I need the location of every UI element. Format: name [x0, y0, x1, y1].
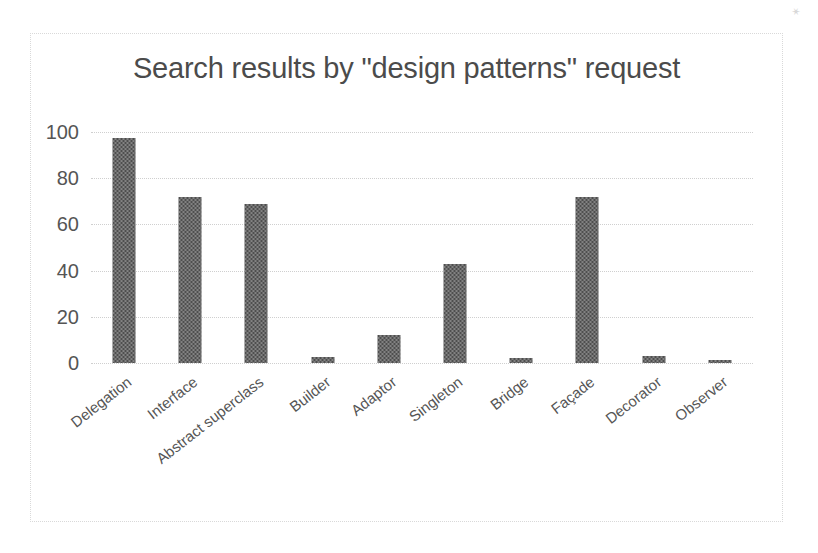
bar-series-group: DelegationInterfaceAbstract superclassBu… — [91, 132, 753, 363]
x-tick-label-text: Decorator — [602, 373, 664, 427]
x-tick-label-text: Interface — [144, 373, 200, 422]
bar[interactable] — [444, 264, 467, 363]
gridline — [91, 363, 753, 364]
scan-speckle-top-right: ✶ — [788, 5, 802, 21]
x-tick-label: Façade — [548, 373, 598, 417]
y-tick-label: 60 — [57, 213, 79, 236]
bar-slot: Interface — [157, 132, 223, 363]
bar-slot: Decorator — [621, 132, 687, 363]
x-tick-label: Decorator — [602, 373, 664, 427]
bar[interactable] — [576, 197, 599, 363]
bar[interactable] — [642, 356, 665, 363]
x-tick-label-text: Builder — [286, 373, 333, 415]
bar-slot: Singleton — [422, 132, 488, 363]
bar[interactable] — [510, 358, 533, 363]
x-tick-label: Adaptor — [347, 373, 399, 419]
plot-area: 020406080100 DelegationInterfaceAbstract… — [91, 132, 753, 363]
y-tick-label: 40 — [57, 259, 79, 282]
x-tick-label-text: Delegation — [68, 373, 135, 431]
chart-frame: Search results by "design patterns" requ… — [30, 33, 783, 522]
x-tick-label: Bridge — [487, 373, 532, 413]
x-tick-label: Delegation — [68, 373, 135, 431]
x-tick-label: Observer — [671, 373, 730, 424]
x-tick-label-text: Observer — [671, 373, 730, 424]
bar[interactable] — [245, 204, 268, 363]
x-tick-label: Builder — [286, 373, 333, 415]
x-tick-label-text: Bridge — [487, 373, 532, 413]
bar-slot: Abstract superclass — [223, 132, 289, 363]
y-tick-label: 0 — [68, 352, 79, 375]
bar[interactable] — [311, 357, 334, 363]
bar[interactable] — [179, 197, 202, 363]
bar-slot: Adaptor — [356, 132, 422, 363]
chart-title: Search results by "design patterns" requ… — [31, 52, 782, 85]
x-tick-label-text: Singleton — [406, 373, 466, 425]
y-tick-label: 100 — [46, 121, 79, 144]
bar[interactable] — [113, 138, 136, 363]
bar-slot: Bridge — [488, 132, 554, 363]
x-tick-label-text: Façade — [548, 373, 598, 417]
x-tick-label: Interface — [144, 373, 200, 422]
bar[interactable] — [377, 335, 400, 363]
bar-slot: Observer — [687, 132, 753, 363]
y-tick-label: 80 — [57, 167, 79, 190]
x-tick-label-text: Adaptor — [347, 373, 399, 419]
bar[interactable] — [708, 360, 731, 363]
bar-slot: Builder — [290, 132, 356, 363]
x-tick-label: Singleton — [406, 373, 466, 425]
bar-slot: Façade — [554, 132, 620, 363]
bar-slot: Delegation — [91, 132, 157, 363]
y-tick-label: 20 — [57, 305, 79, 328]
